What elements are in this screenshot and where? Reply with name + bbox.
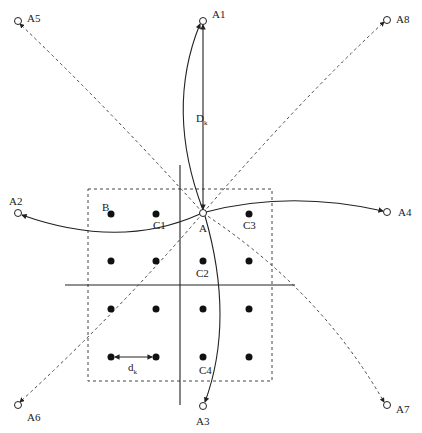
label-a3: A3 — [196, 415, 210, 427]
grid-dot — [153, 306, 160, 313]
label-c1: C1 — [153, 219, 166, 231]
grid-dot-c3 — [246, 211, 253, 218]
grid-dot — [200, 306, 207, 313]
grid-dot-c4 — [200, 354, 207, 361]
label-a: A — [199, 222, 207, 234]
label-a7: A7 — [396, 403, 410, 415]
grid-dot-c2 — [200, 258, 207, 265]
grid-dot — [108, 306, 115, 313]
grid-dot — [246, 258, 253, 265]
grid-dot-c1 — [153, 211, 160, 218]
node-a5 — [15, 18, 22, 25]
grid-dot — [108, 258, 115, 265]
grid-dot — [108, 354, 115, 361]
node-a6 — [15, 402, 22, 409]
label-a1: A1 — [212, 8, 225, 20]
label-dk-main: Dk — [196, 112, 208, 127]
grid-dot — [153, 354, 160, 361]
node-a7 — [384, 402, 391, 409]
path-a-to-a8 — [203, 22, 384, 213]
label-a8: A8 — [396, 13, 410, 25]
grid-dot — [246, 354, 253, 361]
label-a5: A5 — [27, 12, 41, 24]
label-a6: A6 — [27, 411, 41, 423]
node-a2 — [15, 210, 22, 217]
label-c3: C3 — [243, 219, 256, 231]
label-b: B — [102, 201, 109, 213]
node-a1 — [200, 18, 207, 25]
label-a2: A2 — [9, 195, 22, 207]
cell-neighborhood-diagram: A1 A2 A3 A4 A5 A6 A7 A8 A B C1 C2 C3 C4 … — [0, 0, 422, 433]
label-c4: C4 — [199, 364, 212, 376]
grid-dot — [246, 306, 253, 313]
label-dk-small: dk — [128, 361, 138, 376]
node-a8 — [384, 17, 391, 24]
node-a — [200, 210, 207, 217]
grid-dot — [153, 258, 160, 265]
label-a4: A4 — [398, 206, 412, 218]
path-a-to-a4 — [206, 201, 383, 212]
path-a-to-a5 — [20, 24, 203, 213]
path-a-to-a7 — [203, 213, 384, 402]
node-a4 — [384, 209, 391, 216]
node-a3 — [200, 403, 207, 410]
label-c2: C2 — [196, 267, 209, 279]
